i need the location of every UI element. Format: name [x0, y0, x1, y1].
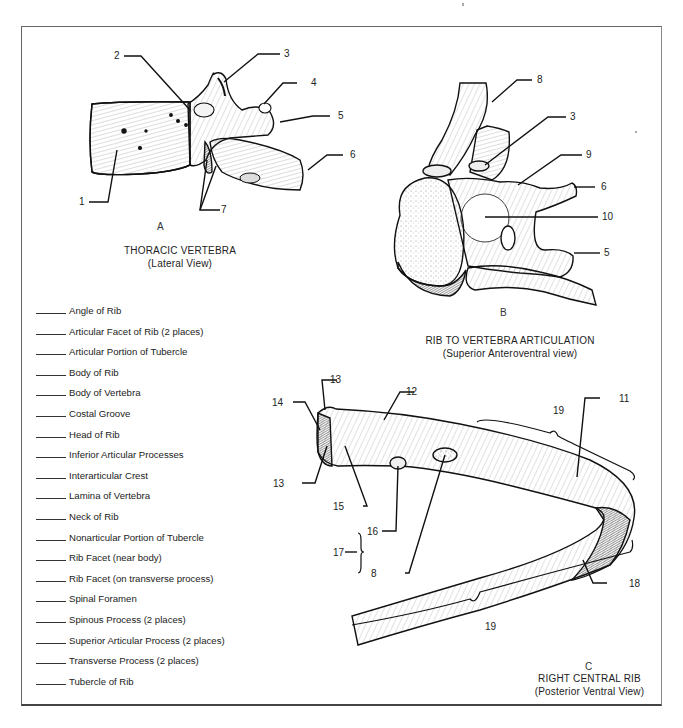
word-bank-item: Spinous Process (2 places) — [36, 614, 225, 635]
callout-a-5: 5 — [338, 111, 344, 121]
figure-c-rib — [317, 407, 635, 645]
word-bank-term: Rib Facet (on transverse process) — [69, 573, 214, 584]
figure-b-title: RIB TO VERTEBRA ARTICULATION — [400, 334, 620, 347]
word-bank-item: Articular Portion of Tubercle — [36, 346, 225, 367]
figure-a-letter: A — [157, 221, 164, 232]
answer-blank[interactable] — [36, 305, 66, 314]
word-bank-term: Spinous Process (2 places) — [69, 614, 186, 625]
callout-c-12: 12 — [406, 387, 417, 397]
word-bank-term: Angle of Rib — [69, 305, 121, 316]
word-bank-item: Spinal Foramen — [36, 593, 225, 614]
word-bank-term: Nonarticular Portion of Tubercle — [69, 532, 204, 543]
answer-blank[interactable] — [36, 470, 66, 479]
answer-blank[interactable] — [36, 593, 66, 602]
answer-blank[interactable] — [36, 346, 66, 355]
word-bank-item: Costal Groove — [36, 408, 225, 429]
word-bank-term: Spinal Foramen — [69, 593, 137, 604]
callout-c-19-bottom: 19 — [485, 622, 496, 632]
callout-c-15: 15 — [333, 502, 344, 512]
word-bank-item: Body of Vertebra — [36, 387, 225, 408]
callout-b-8: 8 — [537, 75, 543, 85]
figure-b-subtitle: (Superior Anteroventral view) — [400, 347, 620, 360]
callout-c-11: 11 — [619, 394, 629, 404]
callout-a-6: 6 — [350, 150, 356, 160]
figure-c-caption: RIGHT CENTRAL RIB (Posterior Ventral Vie… — [522, 672, 657, 698]
answer-blank[interactable] — [36, 408, 66, 417]
answer-blank[interactable] — [36, 449, 66, 458]
callout-b-9: 9 — [586, 150, 592, 160]
word-bank-term: Tubercle of Rib — [69, 676, 134, 687]
figure-a-subtitle: (Lateral View) — [100, 257, 260, 270]
callout-a-2: 2 — [114, 51, 120, 61]
answer-blank[interactable] — [36, 655, 66, 664]
word-bank-item: Interarticular Crest — [36, 470, 225, 491]
answer-blank[interactable] — [36, 676, 66, 685]
word-bank-item: Head of Rib — [36, 429, 225, 450]
callout-c-17: 17 — [333, 548, 344, 558]
answer-blank[interactable] — [36, 387, 66, 396]
figure-c-letter: C — [585, 661, 592, 672]
callout-b-6: 6 — [601, 182, 607, 192]
word-bank-item: Tubercle of Rib — [36, 676, 225, 697]
figure-b-caption: RIB TO VERTEBRA ARTICULATION (Superior A… — [400, 334, 620, 360]
answer-blank[interactable] — [36, 614, 66, 623]
callout-c-13-top: 13 — [330, 375, 341, 385]
answer-blank[interactable] — [36, 552, 66, 561]
figure-c-title: RIGHT CENTRAL RIB — [522, 672, 657, 685]
word-bank-term: Rib Facet (near body) — [69, 552, 162, 563]
word-bank-item: Neck of Rib — [36, 511, 225, 532]
word-bank-term: Inferior Articular Processes — [69, 449, 184, 460]
answer-blank[interactable] — [36, 635, 66, 644]
figure-a-vertebra — [90, 73, 303, 190]
callout-c-8: 8 — [371, 569, 377, 579]
figure-c-subtitle: (Posterior Ventral View) — [522, 685, 657, 698]
word-bank-item: Body of Rib — [36, 367, 225, 388]
word-bank-item: Articular Facet of Rib (2 places) — [36, 326, 225, 347]
word-bank-term: Interarticular Crest — [69, 470, 148, 481]
figure-a-title: THORACIC VERTEBRA — [100, 244, 260, 257]
word-bank-term: Neck of Rib — [69, 511, 119, 522]
callout-c-14: 14 — [272, 398, 283, 408]
answer-blank[interactable] — [36, 429, 66, 438]
word-bank-term: Costal Groove — [69, 408, 130, 419]
answer-blank[interactable] — [36, 532, 66, 541]
callout-a-4: 4 — [311, 78, 317, 88]
word-bank-term: Superior Articular Process (2 places) — [69, 635, 225, 646]
word-bank-item: Superior Articular Process (2 places) — [36, 635, 225, 656]
word-bank-term: Body of Rib — [69, 367, 119, 378]
figure-a-caption: THORACIC VERTEBRA (Lateral View) — [100, 244, 260, 270]
word-bank-item: Angle of Rib — [36, 305, 225, 326]
callout-a-1: 1 — [79, 197, 85, 207]
word-bank-term: Head of Rib — [69, 429, 120, 440]
word-bank-item: Rib Facet (near body) — [36, 552, 225, 573]
word-bank-list: Angle of Rib Articular Facet of Rib (2 p… — [36, 305, 225, 696]
callout-b-5: 5 — [604, 248, 610, 258]
word-bank-item: Rib Facet (on transverse process) — [36, 573, 225, 594]
word-bank-term: Articular Portion of Tubercle — [69, 346, 187, 357]
answer-blank[interactable] — [36, 511, 66, 520]
callout-b-10: 10 — [602, 212, 613, 222]
callout-c-19-top: 19 — [553, 406, 564, 416]
callout-c-16: 16 — [367, 527, 378, 537]
figure-b-letter: B — [500, 307, 507, 318]
word-bank-term: Transverse Process (2 places) — [69, 655, 199, 666]
word-bank-item: Lamina of Vertebra — [36, 490, 225, 511]
word-bank-item: Transverse Process (2 places) — [36, 655, 225, 676]
callout-c-18: 18 — [629, 579, 640, 589]
word-bank-term: Articular Facet of Rib (2 places) — [69, 326, 203, 337]
word-bank-term: Lamina of Vertebra — [69, 490, 150, 501]
word-bank-term: Body of Vertebra — [69, 387, 140, 398]
callout-a-3: 3 — [284, 49, 290, 59]
callout-c-13-bottom: 13 — [273, 479, 284, 489]
callout-b-3: 3 — [570, 112, 576, 122]
word-bank-item: Nonarticular Portion of Tubercle — [36, 532, 225, 553]
answer-blank[interactable] — [36, 490, 66, 499]
callout-a-7: 7 — [221, 205, 227, 215]
word-bank-item: Inferior Articular Processes — [36, 449, 225, 470]
answer-blank[interactable] — [36, 367, 66, 376]
answer-blank[interactable] — [36, 326, 66, 335]
answer-blank[interactable] — [36, 573, 66, 582]
